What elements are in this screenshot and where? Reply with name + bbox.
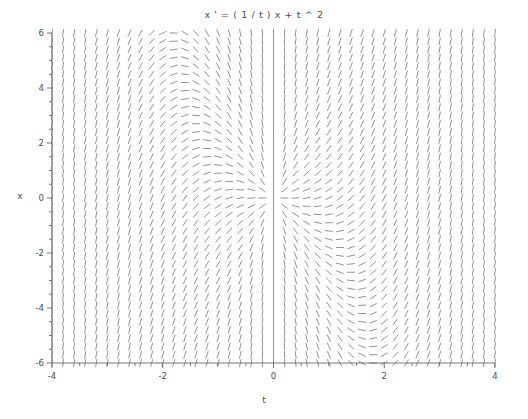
field-dash xyxy=(314,206,322,207)
field-dash xyxy=(251,334,252,342)
field-dash xyxy=(203,140,211,141)
field-dash xyxy=(106,169,108,177)
field-dash xyxy=(295,301,297,309)
field-dash xyxy=(247,198,255,199)
field-dash xyxy=(483,343,484,351)
field-dash xyxy=(495,29,496,37)
field-dash xyxy=(427,268,429,276)
field-dash xyxy=(327,120,331,127)
field-dash xyxy=(139,62,143,69)
field-dash xyxy=(316,302,319,309)
field-dash xyxy=(117,219,119,227)
field-dash xyxy=(284,136,286,144)
field-dash xyxy=(393,319,398,326)
field-dash xyxy=(107,301,109,309)
field-dash xyxy=(370,270,376,275)
field-dash xyxy=(85,169,86,177)
field-dash xyxy=(226,146,232,151)
field-dash xyxy=(62,79,63,87)
field-dash xyxy=(215,138,222,142)
field-dash xyxy=(128,145,131,153)
field-dash xyxy=(327,145,332,152)
field-dash xyxy=(494,334,495,342)
field-dash xyxy=(150,285,152,293)
field-dash xyxy=(439,186,441,194)
field-dash xyxy=(417,95,419,103)
field-dash xyxy=(472,169,473,177)
field-dash xyxy=(182,179,187,185)
field-dash xyxy=(461,293,463,301)
field-dash xyxy=(439,161,441,169)
field-dash xyxy=(336,279,343,283)
field-dash xyxy=(295,62,296,70)
field-dash xyxy=(96,244,97,252)
field-dash xyxy=(416,219,418,227)
field-dash xyxy=(107,293,109,301)
field-dash xyxy=(461,194,462,202)
field-dash xyxy=(394,145,397,153)
field-dash xyxy=(439,136,441,144)
field-dash xyxy=(95,153,97,161)
field-dash xyxy=(294,145,297,152)
field-dash xyxy=(205,293,208,300)
field-dash xyxy=(305,301,307,309)
field-dash xyxy=(461,285,462,293)
field-dash xyxy=(151,318,153,326)
field-dash xyxy=(349,112,353,119)
field-dash xyxy=(428,194,430,202)
field-dash xyxy=(84,70,86,78)
field-dash xyxy=(495,178,496,186)
field-dash xyxy=(238,228,243,234)
field-dash xyxy=(161,252,164,259)
field-dash xyxy=(128,29,131,36)
field-dash xyxy=(96,318,97,326)
field-dash xyxy=(84,95,86,103)
field-dash xyxy=(405,120,407,128)
field-dash xyxy=(314,197,322,199)
field-dash xyxy=(117,54,120,62)
field-dash xyxy=(325,231,333,232)
field-dash xyxy=(405,37,407,45)
field-dash xyxy=(284,145,286,153)
field-dash xyxy=(439,120,441,128)
field-dash xyxy=(405,79,407,87)
field-dash xyxy=(161,285,164,293)
field-dash xyxy=(295,318,296,326)
field-dash xyxy=(495,145,496,153)
field-dash xyxy=(85,326,86,334)
field-dash xyxy=(139,178,142,186)
field-dash xyxy=(63,260,64,268)
field-dash xyxy=(63,153,64,161)
field-dash xyxy=(251,343,252,351)
field-dash xyxy=(450,252,452,260)
field-dash xyxy=(117,37,120,45)
field-dash xyxy=(215,212,221,217)
field-dash xyxy=(84,29,86,37)
field-dash xyxy=(393,285,397,292)
field-dash xyxy=(393,310,398,317)
field-dash xyxy=(284,70,285,78)
field-dash xyxy=(74,268,75,276)
field-dash xyxy=(74,153,75,161)
field-dash xyxy=(193,187,199,192)
field-dash xyxy=(439,79,441,87)
field-dash xyxy=(336,271,343,274)
field-dash xyxy=(359,245,366,250)
y-tick-label: 2 xyxy=(18,138,44,148)
field-dash xyxy=(348,344,354,349)
field-dash xyxy=(417,70,419,78)
field-dash xyxy=(306,79,308,87)
field-dash xyxy=(251,326,252,334)
field-dash xyxy=(150,277,152,285)
field-dash xyxy=(96,235,97,243)
field-dash xyxy=(304,244,309,250)
field-dash xyxy=(74,310,75,318)
field-dash xyxy=(325,254,332,258)
field-dash xyxy=(295,37,296,45)
field-dash xyxy=(427,293,429,301)
field-dash xyxy=(347,255,355,257)
field-dash xyxy=(472,343,473,351)
field-dash xyxy=(172,269,175,276)
field-dash xyxy=(294,260,297,268)
field-dash xyxy=(192,115,200,116)
